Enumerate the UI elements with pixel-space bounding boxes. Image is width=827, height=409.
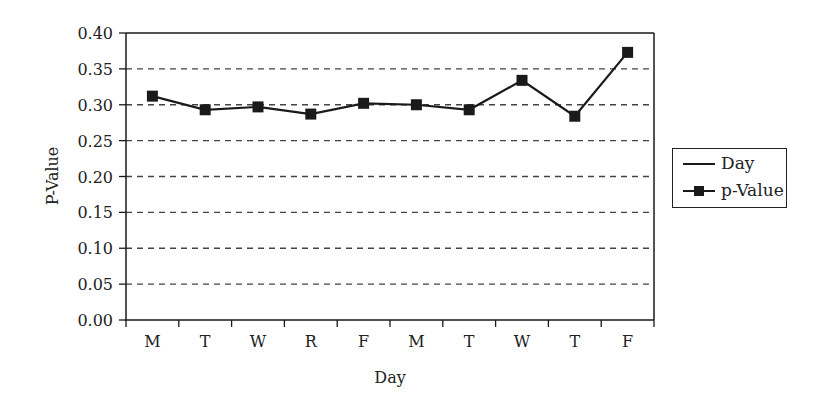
data-point-marker <box>200 104 211 115</box>
x-tick-label: F <box>358 332 369 351</box>
y-tick-label: 0.30 <box>77 96 113 115</box>
y-tick-label: 0.10 <box>77 239 113 258</box>
line-swatch-icon <box>681 156 717 170</box>
data-point-marker <box>517 75 528 86</box>
x-tick-label: W <box>250 332 267 351</box>
data-point-marker <box>147 91 158 102</box>
x-axis-ticks: MTWRFMTWTF <box>126 320 654 351</box>
gridlines <box>126 69 654 284</box>
y-tick-label: 0.25 <box>77 132 113 151</box>
y-tick-label: 0.05 <box>77 275 113 294</box>
y-tick-label: 0.35 <box>77 60 113 79</box>
x-tick-label: W <box>514 332 531 351</box>
data-point-marker <box>464 104 475 115</box>
legend-label: Day <box>721 153 754 173</box>
data-point-marker <box>569 111 580 122</box>
data-point-marker <box>253 101 264 112</box>
y-axis-ticks: 0.000.050.100.150.200.250.300.350.40 <box>77 24 126 330</box>
x-tick-label: M <box>408 332 424 351</box>
data-point-marker <box>305 109 316 120</box>
legend: Day p-Value <box>672 148 787 208</box>
x-tick-label: T <box>464 332 475 351</box>
y-tick-label: 0.00 <box>77 311 113 330</box>
data-point-marker <box>622 47 633 58</box>
data-point-marker <box>411 99 422 110</box>
x-tick-label: M <box>144 332 160 351</box>
p-value-series <box>147 47 633 122</box>
x-tick-label: F <box>622 332 633 351</box>
y-tick-label: 0.20 <box>77 168 113 187</box>
series-line <box>152 52 627 116</box>
legend-item-p-value: p-Value <box>673 176 786 203</box>
y-tick-label: 0.15 <box>77 203 113 222</box>
x-tick-label: R <box>305 332 318 351</box>
x-tick-label: T <box>569 332 580 351</box>
data-point-marker <box>358 98 369 109</box>
x-tick-label: T <box>200 332 211 351</box>
legend-item-day: Day <box>673 149 786 176</box>
y-tick-label: 0.40 <box>77 24 113 43</box>
legend-label: p-Value <box>721 180 784 200</box>
x-axis-title: Day <box>374 368 405 387</box>
y-axis-title: P-Value <box>43 147 62 206</box>
square-marker-swatch-icon <box>681 183 717 197</box>
